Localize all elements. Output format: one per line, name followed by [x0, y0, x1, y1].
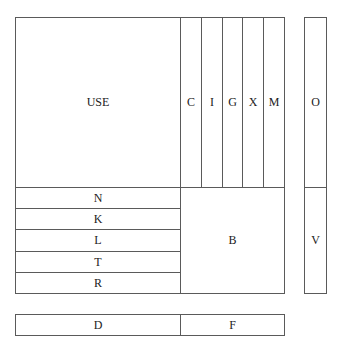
- use-label: USE: [87, 95, 110, 110]
- row-l: L: [15, 229, 181, 252]
- row-k: K: [15, 208, 181, 230]
- row-n: N: [15, 187, 181, 209]
- row-k-label: K: [94, 212, 103, 227]
- column-m: M: [263, 17, 285, 188]
- column-c-label: C: [187, 95, 195, 110]
- column-x: X: [242, 17, 264, 188]
- column-g: G: [222, 17, 243, 188]
- v-label: V: [311, 233, 320, 248]
- d-label: D: [94, 318, 103, 333]
- column-g-label: G: [228, 95, 237, 110]
- b-cell: B: [180, 187, 285, 294]
- f-label: F: [229, 318, 236, 333]
- o-label: O: [311, 95, 320, 110]
- side-top-o: O: [304, 17, 327, 188]
- column-i: I: [201, 17, 223, 188]
- column-x-label: X: [249, 95, 258, 110]
- row-l-label: L: [94, 233, 101, 248]
- use-cell: USE: [15, 17, 181, 188]
- column-m-label: M: [269, 95, 280, 110]
- bottom-left-d: D: [15, 314, 181, 336]
- side-bottom-v: V: [304, 187, 327, 294]
- column-i-label: I: [210, 95, 214, 110]
- row-t-label: T: [94, 255, 101, 270]
- row-t: T: [15, 251, 181, 273]
- bottom-right-f: F: [180, 314, 285, 336]
- row-n-label: N: [94, 191, 103, 206]
- column-c: C: [180, 17, 202, 188]
- b-label: B: [228, 233, 236, 248]
- row-r: R: [15, 272, 181, 294]
- row-r-label: R: [94, 276, 102, 291]
